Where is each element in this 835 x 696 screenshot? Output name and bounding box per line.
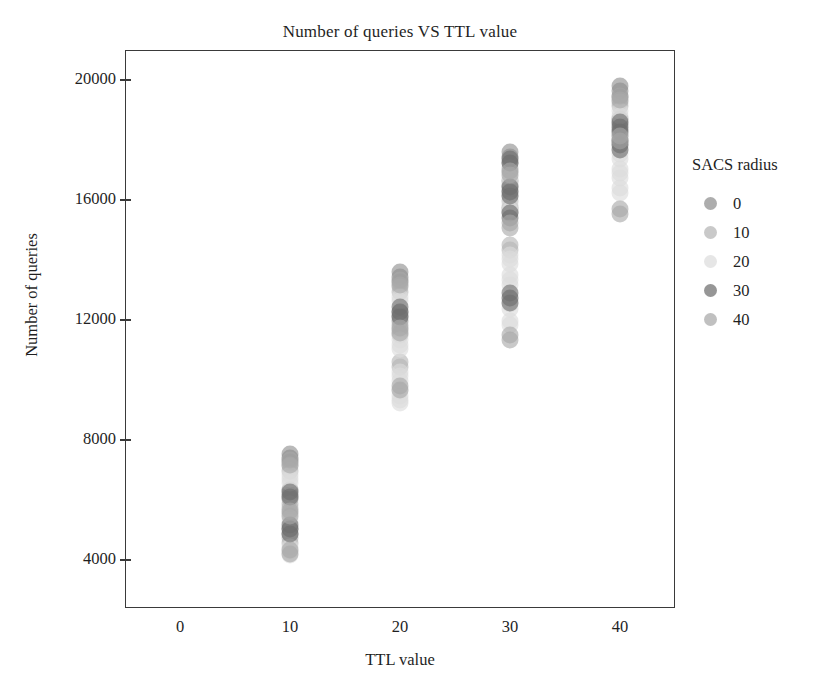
x-axis-title: TTL value — [125, 650, 675, 670]
y-tick-label: 20000 — [46, 69, 116, 89]
legend-item[interactable]: 30 — [704, 276, 830, 305]
x-tick-label: 30 — [475, 617, 545, 637]
y-tick-label: 12000 — [46, 309, 116, 329]
y-tick-mark — [120, 439, 131, 441]
legend-marker-icon — [704, 197, 717, 210]
legend-entries: 010203040 — [690, 189, 830, 334]
y-tick-label: 16000 — [46, 189, 116, 209]
legend-marker-icon — [704, 313, 717, 326]
legend-item-label: 30 — [733, 281, 750, 301]
x-tick-label: 10 — [255, 617, 325, 637]
y-tick-label: 4000 — [46, 549, 116, 569]
legend-item-label: 10 — [733, 223, 750, 243]
y-tick-label: 8000 — [46, 429, 116, 449]
scatter-plot-figure: Number of queries VS TTL value 400080001… — [0, 0, 835, 696]
plot-frame — [125, 50, 675, 608]
legend-title: SACS radius — [692, 155, 830, 175]
legend-marker-icon — [704, 255, 717, 268]
legend-item[interactable]: 20 — [704, 247, 830, 276]
page-title: Number of queries VS TTL value — [125, 22, 675, 42]
legend-item-label: 20 — [733, 252, 750, 272]
legend-marker-icon — [704, 284, 717, 297]
legend-item-label: 0 — [733, 194, 741, 214]
legend-item-label: 40 — [733, 310, 750, 330]
legend: SACS radius 010203040 — [690, 155, 830, 334]
y-tick-mark — [120, 559, 131, 561]
x-tick-label: 0 — [145, 617, 215, 637]
legend-marker-icon — [704, 226, 717, 239]
x-tick-label: 40 — [585, 617, 655, 637]
y-tick-mark — [120, 319, 131, 321]
y-tick-mark — [120, 199, 131, 201]
legend-item[interactable]: 40 — [704, 305, 830, 334]
legend-item[interactable]: 10 — [704, 218, 830, 247]
x-tick-label: 20 — [365, 617, 435, 637]
y-tick-mark — [120, 79, 131, 81]
legend-item[interactable]: 0 — [704, 189, 830, 218]
y-axis-title: Number of queries — [22, 205, 42, 385]
